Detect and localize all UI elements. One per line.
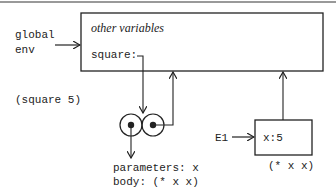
- square-pointer-arrow: [137, 56, 143, 113]
- e1-expression: (* x x): [268, 160, 314, 172]
- environment-diagram: other variables square: global env (squa…: [0, 0, 336, 195]
- call-expression: (square 5): [15, 94, 81, 106]
- e1-label: E1: [215, 132, 229, 144]
- global-label: global: [15, 29, 55, 41]
- other-variables-text: other variables: [91, 21, 164, 35]
- parameters-text: parameters: x: [113, 162, 199, 174]
- env-label: env: [15, 44, 35, 56]
- env-pointer-arrow: [153, 72, 173, 125]
- square-binding: square:: [91, 49, 137, 61]
- body-text: body: (* x x): [113, 176, 199, 188]
- e1-binding: x:5: [263, 132, 283, 144]
